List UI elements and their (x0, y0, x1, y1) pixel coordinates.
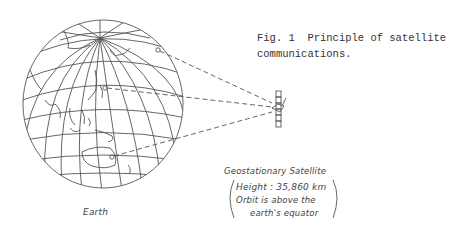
diagram-canvas: Fig. 1 Principle of satellite communicat… (0, 0, 458, 241)
figure-caption: Fig. 1 Principle of satellite communicat… (257, 30, 446, 62)
satellite-icon (272, 91, 286, 127)
satellite-title: Geostationary Satellite (224, 166, 326, 176)
satellite-orbit-line-1: Orbit is above the (236, 195, 316, 205)
earth-label: Earth (83, 207, 108, 217)
satellite-height: Height : 35,860 km (236, 182, 326, 192)
caption-line-2: communications. (257, 48, 352, 60)
globe-icon (20, 18, 186, 192)
caption-line-1: Fig. 1 Principle of satellite (257, 32, 446, 44)
satellite-orbit-line-2: earth's equator (250, 208, 318, 218)
signal-beams (107, 51, 272, 156)
